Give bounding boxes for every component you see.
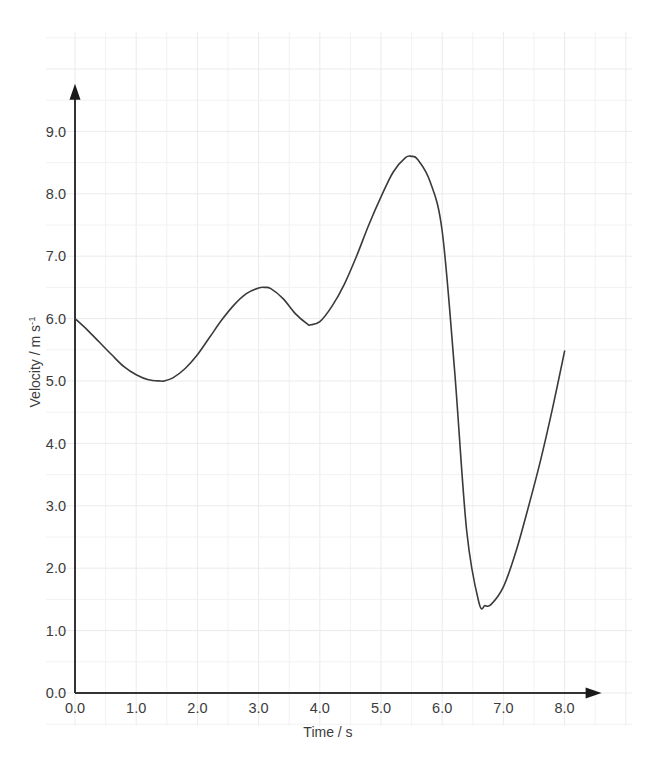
x-tick-label: 0.0 (65, 700, 85, 716)
y-tick-label: 1.0 (46, 623, 66, 639)
chart-canvas: 0.01.02.03.04.05.06.07.08.0 0.01.02.03.0… (0, 0, 656, 761)
x-tick-label: 3.0 (249, 700, 269, 716)
y-tick-label: 9.0 (46, 124, 66, 140)
y-tick-label: 3.0 (46, 498, 66, 514)
x-tick-label: 6.0 (432, 700, 452, 716)
x-tick-label: 4.0 (310, 700, 330, 716)
x-tick-label: 7.0 (493, 700, 513, 716)
y-axis-title: Velocity / m s-1 (26, 317, 43, 408)
velocity-time-chart: 0.01.02.03.04.05.06.07.08.0 0.01.02.03.0… (0, 0, 656, 761)
y-tick-label: 2.0 (46, 560, 66, 576)
x-tick-label: 5.0 (371, 700, 391, 716)
x-tick-label: 8.0 (555, 700, 575, 716)
y-tick-label: 4.0 (46, 436, 66, 452)
x-axis-tick-labels: 0.01.02.03.04.05.06.07.08.0 (65, 700, 575, 716)
y-tick-label: 0.0 (46, 685, 66, 701)
x-tick-label: 2.0 (187, 700, 207, 716)
y-tick-label: 8.0 (46, 186, 66, 202)
y-tick-label: 6.0 (46, 311, 66, 327)
x-tick-label: 1.0 (126, 700, 146, 716)
y-tick-label: 7.0 (46, 248, 66, 264)
x-axis-title: Time / s (303, 724, 352, 740)
y-axis-title-group: Velocity / m s-1 (26, 317, 43, 408)
y-tick-label: 5.0 (46, 373, 66, 389)
